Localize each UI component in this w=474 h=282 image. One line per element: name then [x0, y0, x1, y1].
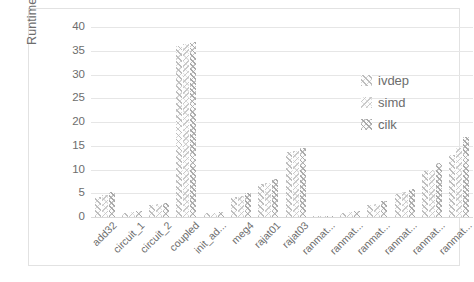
bar-ivdep[interactable] — [204, 213, 210, 217]
y-axis-tick-label: 10 — [72, 164, 85, 176]
y-axis-title: Runtime (seconds) — [25, 0, 39, 45]
bar-group — [282, 27, 309, 217]
bar-ivdep[interactable] — [258, 184, 264, 217]
legend-item-label: cilk — [378, 117, 397, 132]
y-axis-tick-label: 35 — [72, 45, 85, 57]
bar-cilk[interactable] — [190, 42, 196, 217]
bar-group — [255, 27, 282, 217]
bar-cilk[interactable] — [136, 211, 142, 217]
bar-simd[interactable] — [320, 216, 326, 217]
x-axis-label-cell: rajat01 — [255, 219, 282, 273]
legend-swatch-icon — [361, 75, 372, 86]
bar-cilk[interactable] — [436, 163, 442, 217]
bar-simd[interactable] — [129, 212, 135, 217]
bar-cilk[interactable] — [218, 212, 224, 217]
bar-ivdep[interactable] — [449, 155, 455, 217]
legend-item[interactable]: cilk — [361, 113, 461, 135]
bar-cilk[interactable] — [163, 203, 169, 217]
y-axis-tick-label: 0 — [79, 211, 85, 223]
bar-ivdep[interactable] — [122, 213, 128, 217]
y-axis-tick-label: 5 — [79, 188, 85, 200]
gridline — [91, 217, 473, 218]
bar-group — [91, 27, 118, 217]
bar-group — [200, 27, 227, 217]
y-axis-tick-label: 30 — [72, 69, 85, 81]
legend-item[interactable]: simd — [361, 91, 461, 113]
x-axis-tick-label: rajat01 — [252, 219, 283, 250]
x-axis-label-cell: meg4 — [227, 219, 254, 273]
chart-legend: ivdep simd cilk — [361, 69, 461, 135]
bar-simd[interactable] — [265, 183, 271, 217]
bar-group — [227, 27, 254, 217]
bar-cilk[interactable] — [463, 137, 469, 217]
y-axis-tick-label: 40 — [72, 21, 85, 33]
bar-cilk[interactable] — [245, 193, 251, 217]
legend-item-label: ivdep — [378, 73, 409, 88]
bar-group — [173, 27, 200, 217]
bar-ivdep[interactable] — [313, 216, 319, 217]
bar-group — [309, 27, 336, 217]
bar-simd[interactable] — [293, 151, 299, 217]
y-axis-tick-label: 25 — [72, 93, 85, 105]
y-axis-tick-label: 20 — [72, 116, 85, 128]
bar-simd[interactable] — [156, 204, 162, 217]
bar-simd[interactable] — [347, 212, 353, 217]
bar-cilk[interactable] — [272, 179, 278, 217]
bar-ivdep[interactable] — [286, 152, 292, 217]
x-axis-labels: add32circuit_1circuit_2coupledinit_ad...… — [91, 219, 473, 273]
bar-simd[interactable] — [402, 192, 408, 217]
bar-ivdep[interactable] — [367, 205, 373, 217]
bar-group — [146, 27, 173, 217]
bar-cilk[interactable] — [354, 211, 360, 217]
bar-cilk[interactable] — [300, 148, 306, 217]
bar-ivdep[interactable] — [340, 213, 346, 217]
bar-simd[interactable] — [211, 213, 217, 217]
bar-group — [337, 27, 364, 217]
x-axis-label-cell: ranmat... — [446, 219, 473, 273]
bar-simd[interactable] — [456, 148, 462, 217]
bar-cilk[interactable] — [327, 216, 333, 217]
bar-simd[interactable] — [238, 196, 244, 217]
bar-ivdep[interactable] — [95, 197, 101, 217]
x-axis-label-cell: init_ad... — [200, 219, 227, 273]
legend-item[interactable]: ivdep — [361, 69, 461, 91]
bar-simd[interactable] — [374, 204, 380, 217]
bar-simd[interactable] — [102, 195, 108, 217]
bar-ivdep[interactable] — [395, 194, 401, 217]
bar-cilk[interactable] — [381, 201, 387, 217]
legend-item-label: simd — [378, 95, 405, 110]
chart-container: Runtime (seconds) 0510152025303540 add32… — [28, 8, 460, 266]
legend-swatch-icon — [361, 97, 372, 108]
bar-cilk[interactable] — [109, 192, 115, 217]
bar-simd[interactable] — [183, 44, 189, 217]
bar-ivdep[interactable] — [176, 46, 182, 217]
bar-simd[interactable] — [429, 170, 435, 218]
bar-ivdep[interactable] — [231, 197, 237, 217]
legend-swatch-icon — [361, 119, 372, 130]
y-axis-tick-label: 15 — [72, 140, 85, 152]
bar-cilk[interactable] — [409, 189, 415, 217]
bar-ivdep[interactable] — [422, 171, 428, 217]
bar-group — [118, 27, 145, 217]
bar-ivdep[interactable] — [149, 205, 155, 217]
